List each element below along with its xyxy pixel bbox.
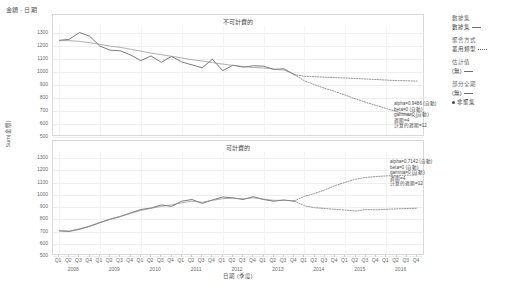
y-axis-ticks-non-billable: 1300120011001000900800700600500 [4,25,48,136]
x-tick-quarter: Q4 [85,257,92,263]
legend-group-title: 數據集 [452,14,514,22]
y-tick-label: 1000 [8,68,48,74]
series-line-solid-2 [59,41,294,75]
chart-panel-billable: 可計費的 [52,140,424,255]
annotation-line: alpha=0.9486 (自動) [394,101,436,107]
y-tick-label: 500 [8,252,48,258]
series-line-dotted [294,201,417,211]
y-tick-label: 800 [8,94,48,100]
y-tick-label: 1100 [8,179,48,185]
x-tick-quarter: Q1 [136,257,143,263]
legend-item-label: (無) [452,67,462,75]
legend-group-title: 估計值 [452,58,514,66]
x-tick-quarter: Q2 [229,257,236,263]
y-tick-label: 1000 [8,191,48,197]
legend-dot-icon [452,101,455,104]
y-tick-label: 900 [8,81,48,87]
legend-dashed-line-icon [478,49,487,50]
y-tick-label: 700 [8,228,48,234]
annotation-line: alpha=0.7142 (自動) [390,159,432,165]
view-caption: 金額 - 日期 [6,5,37,14]
y-tick-label: 1200 [8,166,48,172]
series-line-solid [59,33,294,75]
y-tick-label: 800 [8,215,48,221]
legend-item[interactable]: 數據集 [452,23,514,31]
y-axis-ticks-billable: 1300120011001000900800700600500 [4,151,48,255]
legend-item-label: 叢用類型 [452,45,476,53]
legend-panel: 數據集數據集聚合方式叢用類型估計值(無)部分全期(無)非聚集 [452,14,514,106]
legend-item-label: 數據集 [452,23,470,31]
x-tick-quarter: Q3 [198,257,205,263]
x-tick-quarter: Q1 [177,257,184,263]
x-tick-quarter: Q1 [218,257,225,263]
y-tick-label: 700 [8,107,48,113]
x-tick-quarter: Q2 [392,257,399,263]
x-tick-quarter: Q4 [167,257,174,263]
legend-group-title: 聚合方式 [452,36,514,44]
x-tick-quarter: Q1 [341,257,348,263]
plot-area-billable [53,152,423,254]
x-tick-quarter: Q3 [280,257,287,263]
x-tick-quarter: Q1 [382,257,389,263]
chart-panel-non-billable: 不可計費的 [52,14,424,136]
legend-item-label: 非聚集 [457,98,475,106]
x-tick-quarter: Q4 [126,257,133,263]
x-tick-quarter: Q4 [331,257,338,263]
x-tick-quarter: Q4 [372,257,379,263]
y-tick-label: 500 [8,133,48,139]
x-tick-quarter: Q3 [157,257,164,263]
y-tick-label: 600 [8,120,48,126]
legend-item[interactable]: 非聚集 [452,98,514,106]
forecast-annotation-non-billable: alpha=0.9486 (自動)beta=0 (自動)gamma=0 (自動)… [394,101,436,129]
legend-item-label: (無) [452,89,462,97]
annotation-line: 計算的週期=12 [394,123,436,129]
legend-group-title: 部分全期 [452,80,514,88]
x-tick-quarter: Q3 [75,257,82,263]
y-tick-label: 1100 [8,55,48,61]
panel-title-non-billable: 不可計費的 [53,17,423,26]
x-tick-quarter: Q4 [290,257,297,263]
x-tick-quarter: Q2 [106,257,113,263]
x-tick-quarter: Q2 [188,257,195,263]
x-tick-quarter: Q3 [321,257,328,263]
x-tick-quarter: Q4 [249,257,256,263]
series-line-solid-2 [59,198,294,231]
legend-line-icon [464,93,473,94]
annotation-line: 計算的週期=12 [390,181,432,187]
legend-item[interactable]: (無) [452,67,514,75]
series-layer [53,26,423,137]
gridline-horizontal [53,137,423,138]
x-tick-quarter: Q4 [413,257,420,263]
x-tick-quarter: Q2 [310,257,317,263]
x-tick-quarter: Q2 [269,257,276,263]
panel-title-billable: 可計費的 [53,143,423,152]
x-axis-title: 日期 (季度) [52,272,424,280]
x-tick-quarter: Q2 [147,257,154,263]
y-tick-label: 600 [8,240,48,246]
y-tick-label: 1300 [8,154,48,160]
x-tick-quarter: Q3 [239,257,246,263]
legend-line-icon [464,71,473,72]
x-tick-quarter: Q1 [259,257,266,263]
legend-line-icon [472,27,481,28]
x-tick-quarter: Q4 [208,257,215,263]
x-axis: Q1Q2Q3Q4Q1Q2Q3Q4Q1Q2Q3Q4Q1Q2Q3Q4Q1Q2Q3Q4… [52,255,424,285]
series-line-dotted [294,75,417,82]
x-tick-quarter: Q2 [65,257,72,263]
forecast-annotation-billable: alpha=0.7142 (自動)beta=0 (自動)gamma=0 (自動)… [390,159,432,187]
plot-area-non-billable [53,26,423,135]
x-tick-quarter: Q3 [116,257,123,263]
x-tick-quarter: Q1 [300,257,307,263]
y-tick-label: 1200 [8,42,48,48]
legend-item[interactable]: (無) [452,89,514,97]
x-tick-quarter: Q1 [96,257,103,263]
x-tick-quarter: Q2 [351,257,358,263]
series-layer [53,152,423,256]
y-tick-label: 900 [8,203,48,209]
x-tick-quarter: Q3 [402,257,409,263]
legend-item[interactable]: 叢用類型 [452,45,514,53]
series-line-solid [59,197,294,232]
x-tick-quarter: Q1 [55,257,62,263]
y-tick-label: 1300 [8,29,48,35]
x-tick-quarter: Q3 [362,257,369,263]
